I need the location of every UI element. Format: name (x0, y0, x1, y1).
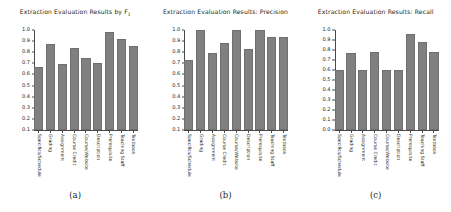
y-tick-label: 0.7 (322, 57, 330, 62)
bar (244, 49, 253, 130)
y-tick-label: 1.0 (22, 27, 30, 32)
y-tick-label: 0.5 (172, 83, 180, 88)
bar (335, 70, 344, 130)
bar (58, 64, 67, 130)
chart-panel-recall: Extraction Evaluation Results: Recall 0.… (301, 0, 451, 212)
y-tick-label: 0.6 (322, 67, 330, 72)
x-label-slot: Grading (346, 134, 355, 180)
bar-series-f1 (34, 30, 138, 130)
bar (105, 32, 114, 130)
y-tick-label: 0.6 (22, 72, 30, 77)
bar (406, 34, 415, 130)
bar (358, 70, 367, 130)
x-axis-label: Description (246, 134, 251, 160)
bar (117, 39, 126, 130)
x-axis-labels-f1: Specifics/ScheduleGradingAssignmentCours… (34, 134, 138, 180)
bars-area-f1 (34, 30, 138, 130)
x-axis-label: Course/Website (84, 134, 89, 170)
y-tick-label: 0.8 (322, 47, 330, 52)
y-tick-label: 0.9 (322, 37, 330, 42)
x-axis-label: Assignment (361, 134, 366, 161)
chart-title-f1: Extraction Evaluation Results by F1 (0, 8, 150, 19)
caption-c: (c) (301, 190, 451, 200)
bars-area-recall (335, 30, 439, 130)
bar (255, 30, 264, 130)
bar (208, 53, 217, 130)
x-axis-label: Assignment (60, 134, 65, 161)
bar (346, 53, 355, 130)
y-tick-label: 0.1 (22, 127, 30, 132)
x-label-slot: Textbook (429, 134, 438, 180)
x-label-slot: Assignment (58, 134, 67, 180)
bar (34, 67, 43, 130)
y-tick-label: 0.4 (172, 94, 180, 99)
bar (129, 46, 138, 130)
x-axis-label: Specifics/Schedule (36, 134, 41, 177)
chart-title-recall: Extraction Evaluation Results: Recall (301, 8, 451, 16)
y-axis-ticks-recall: 0.00.10.20.30.40.50.60.70.80.91.0 (301, 30, 335, 130)
bar (196, 30, 205, 130)
bar (81, 58, 90, 130)
x-axis-label: Grading (198, 134, 203, 152)
x-label-slot: Course Credit (220, 134, 229, 180)
y-tick-label: 0.1 (322, 117, 330, 122)
x-axis-label: Textbook (432, 134, 437, 155)
chart-title-recall-text: Extraction Evaluation Results: Recall (318, 8, 434, 15)
x-label-slot: Textbook (279, 134, 288, 180)
x-axis-label: Teaching Staff (270, 134, 275, 166)
y-tick-label: 0.8 (172, 50, 180, 55)
chart-title-f1-text: Extraction Evaluation Results by F (20, 8, 128, 15)
bar (220, 43, 229, 130)
x-label-slot: Description (244, 134, 253, 180)
x-axis-label: Textbook (281, 134, 286, 155)
y-tick-label: 0.7 (22, 61, 30, 66)
x-label-slot: Teaching Staff (418, 134, 427, 180)
bar (382, 70, 391, 130)
x-label-slot: Grading (46, 134, 55, 180)
y-tick-label: 0.0 (322, 127, 330, 132)
chart-title-precision-text: Extraction Evaluation Results: Precision (163, 8, 288, 15)
y-tick-label: 0.2 (322, 107, 330, 112)
bar (46, 44, 55, 130)
y-tick-label: 0.3 (322, 97, 330, 102)
plot-area-precision: 0.10.20.30.40.50.60.70.80.91.0 Specifics… (150, 28, 300, 133)
x-axis-labels-precision: Specifics/ScheduleGradingAssignmentCours… (184, 134, 288, 180)
x-label-slot: Course Credit (370, 134, 379, 180)
chart-panel-precision: Extraction Evaluation Results: Precision… (150, 0, 300, 212)
x-axis-label: Description (96, 134, 101, 160)
y-tick-label: 0.3 (172, 105, 180, 110)
x-axis-label: Prerequisite (408, 134, 413, 161)
y-tick-label: 0.7 (172, 61, 180, 66)
x-axis-label: Grading (349, 134, 354, 152)
bar (279, 37, 288, 130)
x-axis-label: Teaching Staff (119, 134, 124, 166)
x-label-slot: Description (394, 134, 403, 180)
y-tick-label: 0.3 (22, 105, 30, 110)
y-tick-label: 0.5 (22, 83, 30, 88)
x-label-slot: Specifics/Schedule (34, 134, 43, 180)
caption-b: (b) (150, 190, 300, 200)
x-label-slot: Course Credit (70, 134, 79, 180)
x-axis-labels-recall: Specifics/ScheduleGradingAssignmentCours… (335, 134, 439, 180)
x-axis-label: Specifics/Schedule (187, 134, 192, 177)
x-label-slot: Prerequisite (105, 134, 114, 180)
chart-panel-f1: Extraction Evaluation Results by F1 0.10… (0, 0, 150, 212)
x-label-slot: Description (93, 134, 102, 180)
y-axis-ticks-precision: 0.10.20.30.40.50.60.70.80.91.0 (150, 30, 184, 130)
bar (370, 52, 379, 130)
x-axis-label: Course Credit (72, 134, 77, 165)
x-axis-label: Course/Website (384, 134, 389, 170)
x-label-slot: Grading (196, 134, 205, 180)
x-label-slot: Teaching Staff (117, 134, 126, 180)
x-label-slot: Course/Website (232, 134, 241, 180)
y-tick-label: 0.9 (172, 39, 180, 44)
y-tick-label: 0.2 (22, 116, 30, 121)
x-label-slot: Course/Website (81, 134, 90, 180)
y-tick-label: 0.9 (22, 39, 30, 44)
y-tick-label: 0.6 (172, 72, 180, 77)
y-tick-label: 0.2 (172, 116, 180, 121)
y-tick-label: 0.4 (322, 87, 330, 92)
y-axis-ticks-f1: 0.10.20.30.40.50.60.70.80.91.0 (0, 30, 34, 130)
y-tick-label: 0.4 (22, 94, 30, 99)
bars-area-precision (184, 30, 288, 130)
